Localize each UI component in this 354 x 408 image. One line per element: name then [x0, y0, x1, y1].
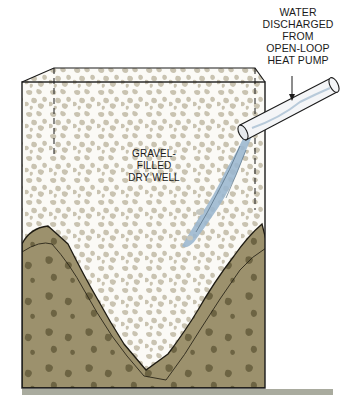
well-label-line: DRY WELL: [114, 172, 194, 184]
callout-line: DISCHARGED: [246, 18, 350, 30]
callout-line: WATER: [246, 6, 350, 18]
callout-line: FROM: [246, 30, 350, 42]
dry-well-label: GRAVEL- FILLED DRY WELL: [114, 148, 194, 184]
callout-line: HEAT PUMP: [246, 54, 350, 66]
callout-line: OPEN-LOOP: [246, 42, 350, 54]
ground-line: [22, 389, 333, 395]
discharge-callout-label: WATER DISCHARGED FROM OPEN-LOOP HEAT PUM…: [246, 6, 350, 66]
well-label-line: GRAVEL-: [114, 148, 194, 160]
well-label-line: FILLED: [114, 160, 194, 172]
